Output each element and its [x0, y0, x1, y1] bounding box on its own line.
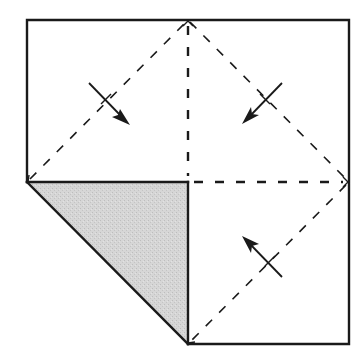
fold-arrow-top-right-icon — [242, 83, 282, 124]
fold-arrow-top-left-icon — [89, 83, 130, 125]
fold-diagram — [0, 0, 362, 363]
dashed-diag-top-right — [190, 22, 346, 179]
dashed-diag-top-left — [30, 22, 186, 179]
